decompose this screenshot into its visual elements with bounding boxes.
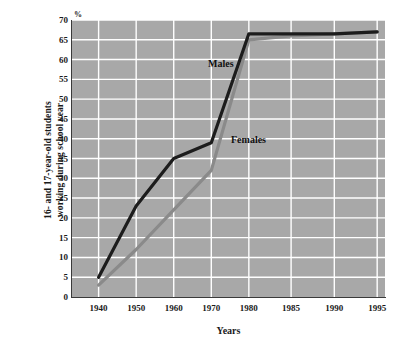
x-tick-label: 1950 (127, 303, 145, 313)
series-line-males (99, 32, 378, 277)
series-label-females: Females (231, 134, 266, 145)
x-tick-label: 1980 (240, 303, 258, 313)
x-tick-label: 1960 (165, 303, 183, 313)
x-tick-label: 1990 (325, 303, 343, 313)
x-axis-label: Years (72, 325, 385, 336)
x-axis-line (71, 297, 386, 298)
x-tick-label: 1940 (90, 303, 108, 313)
x-tick-label: 1985 (282, 303, 300, 313)
x-tick-label: 1995 (368, 303, 386, 313)
series-label-males: Males (208, 58, 234, 69)
x-tick-label: 1970 (202, 303, 220, 313)
chart-figure: 16- and 17-year-old students working dur… (0, 0, 397, 343)
